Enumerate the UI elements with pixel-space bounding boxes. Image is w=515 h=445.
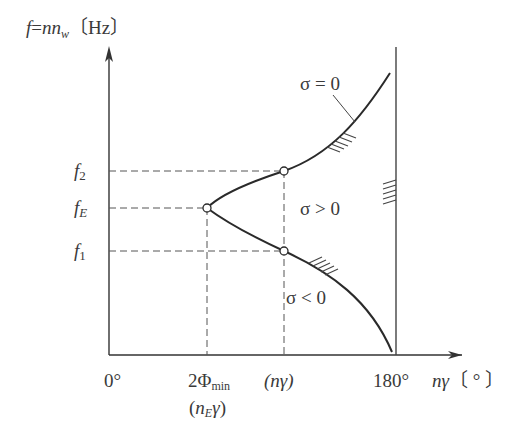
label-fE: fE [74, 197, 87, 220]
label-ngamma: (nγ) [264, 370, 294, 392]
label-f2: f2 [74, 160, 86, 183]
x-axis-title: nγ〔 ° 〕 [432, 370, 504, 391]
label-sigma-positive: σ > 0 [300, 198, 340, 219]
label-sigma-negative: σ < 0 [286, 287, 326, 308]
label-nEgamma: (nEγ) [189, 397, 226, 420]
point-f2 [280, 167, 288, 175]
label-0deg: 0° [104, 370, 121, 391]
point-fE [203, 204, 211, 212]
hatch-boundary [383, 180, 396, 204]
y-axis-title: f=nnw〔Hz〕 [26, 17, 129, 41]
point-f1 [280, 247, 288, 255]
label-180deg: 180° [373, 370, 409, 391]
stability-diagram: f=nnw〔Hz〕 f2 fE f1 0° 2Φmin (nEγ) (nγ) 1… [0, 0, 515, 445]
label-sigma-zero: σ = 0 [300, 73, 340, 94]
label-f1: f1 [74, 240, 86, 263]
label-2phimin: 2Φmin [188, 370, 230, 393]
y-axis [105, 46, 113, 355]
sigma-zero-leader [333, 95, 355, 122]
dashed-guides [109, 171, 284, 355]
x-axis [109, 351, 462, 359]
